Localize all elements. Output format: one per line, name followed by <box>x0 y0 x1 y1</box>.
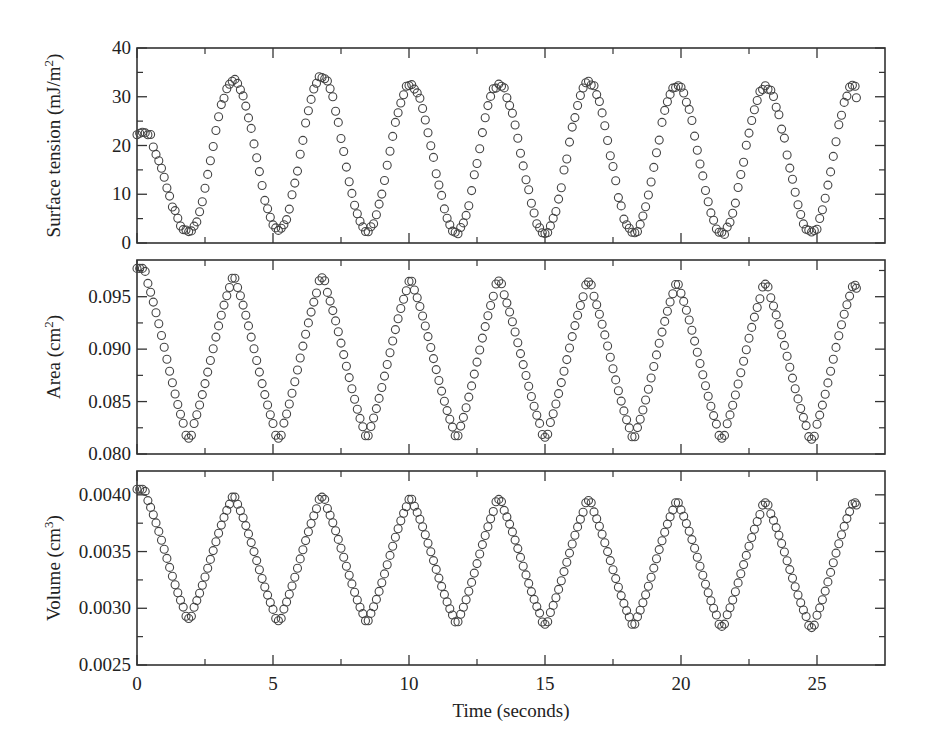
data-point <box>419 523 427 531</box>
data-point <box>459 413 467 421</box>
data-point <box>375 587 383 595</box>
data-point <box>285 205 293 213</box>
data-point <box>478 541 486 549</box>
data-point <box>843 301 851 309</box>
data-point <box>487 302 495 310</box>
data-point <box>198 391 206 399</box>
data-point <box>639 599 647 607</box>
data-point <box>269 605 277 613</box>
data-point <box>797 405 805 413</box>
data-point <box>152 309 160 317</box>
data-point <box>511 536 519 544</box>
data-point <box>149 143 157 151</box>
data-point <box>190 420 198 428</box>
data-point <box>334 535 342 543</box>
data-point <box>217 521 225 529</box>
data-point <box>307 95 315 103</box>
data-point <box>326 297 334 305</box>
data-point <box>745 129 753 137</box>
data-point <box>688 536 696 544</box>
data-point <box>563 558 571 566</box>
data-point <box>579 508 587 516</box>
data-point <box>288 582 296 590</box>
data-point <box>710 216 718 224</box>
data-point <box>209 143 217 151</box>
data-point <box>650 163 658 171</box>
data-point <box>522 372 530 380</box>
data-series <box>133 485 860 631</box>
data-point <box>416 303 424 311</box>
data-point <box>609 163 617 171</box>
data-point <box>609 365 617 373</box>
data-point <box>644 385 652 393</box>
data-point <box>846 292 854 300</box>
data-point <box>546 222 554 230</box>
data-point <box>636 220 644 228</box>
data-point <box>775 531 783 539</box>
data-point <box>712 611 720 619</box>
data-point <box>821 587 829 595</box>
data-point <box>530 402 538 410</box>
data-point <box>639 212 647 220</box>
data-point <box>511 121 519 129</box>
data-point <box>370 414 378 422</box>
data-point <box>416 515 424 523</box>
data-point <box>791 583 799 591</box>
data-point <box>786 566 794 574</box>
data-point <box>345 571 353 579</box>
data-point <box>247 539 255 547</box>
data-point <box>614 583 622 591</box>
data-point <box>255 368 263 376</box>
data-point <box>729 596 737 604</box>
data-point <box>419 312 427 320</box>
data-point <box>707 402 715 410</box>
data-point <box>536 419 544 427</box>
data-point <box>484 523 492 531</box>
y-axis-label-main: Volume (cm <box>43 528 65 621</box>
data-point <box>661 528 669 536</box>
data-point <box>332 317 340 325</box>
data-point <box>206 357 214 365</box>
data-point <box>568 540 576 548</box>
data-point <box>568 333 576 341</box>
x-tick-label: 0 <box>132 673 142 694</box>
data-point <box>291 378 299 386</box>
data-point <box>549 601 557 609</box>
data-point <box>438 387 446 395</box>
data-point <box>791 188 799 196</box>
y-axis-label-main: Area (cm <box>43 328 65 399</box>
data-point <box>280 419 288 427</box>
data-point <box>255 168 263 176</box>
data-point <box>236 292 244 300</box>
data-point <box>220 301 228 309</box>
data-point <box>340 148 348 156</box>
data-point <box>353 405 361 413</box>
data-point <box>149 511 157 519</box>
data-point <box>427 344 435 352</box>
y-tick-label: 0.0030 <box>79 597 131 618</box>
data-point <box>688 326 696 334</box>
data-point <box>644 582 652 590</box>
data-point <box>604 548 612 556</box>
data-point <box>430 355 438 363</box>
data-point <box>636 606 644 614</box>
data-point <box>737 369 745 377</box>
data-point <box>367 423 375 431</box>
data-point <box>748 323 756 331</box>
data-point <box>307 308 315 316</box>
y-axis-label: Area (cm2) <box>41 315 66 399</box>
data-point <box>508 109 516 117</box>
x-tick-label: 10 <box>400 673 419 694</box>
data-point <box>623 416 631 424</box>
data-point <box>620 407 628 415</box>
y-axis-label-tail: ) <box>43 54 65 60</box>
data-point <box>685 527 693 535</box>
data-point <box>389 132 397 140</box>
data-point <box>310 298 318 306</box>
data-point <box>595 522 603 530</box>
data-point <box>767 294 775 302</box>
data-point <box>174 214 182 222</box>
data-point <box>506 308 514 316</box>
data-point <box>307 520 315 528</box>
data-point <box>446 415 454 423</box>
